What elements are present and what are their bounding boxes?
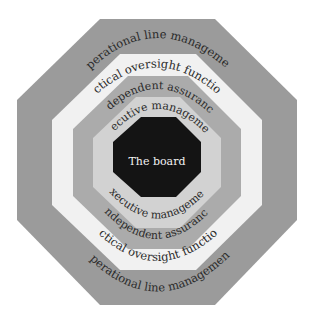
label-board: The board [129,155,186,168]
governance-octagon-diagram: Operational line management Operational … [0,0,315,318]
